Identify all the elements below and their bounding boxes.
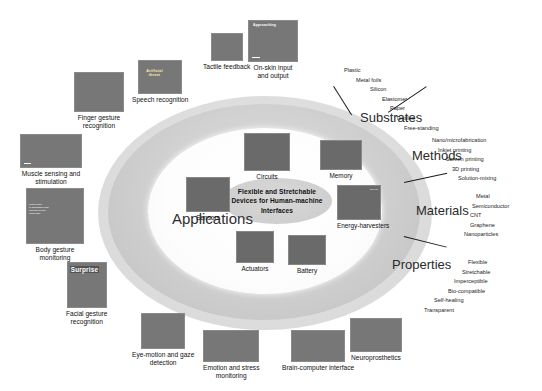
application-label-speech-recognition: Speech recognition [132, 96, 188, 104]
speech-recognition-image: Artificialthroat [138, 60, 182, 94]
category-label-materials: Materials [416, 203, 469, 218]
device-label-energy-harvesters: Energy-harvesters [337, 222, 389, 230]
application-tactile-feedback: Tactile feedback [203, 33, 250, 71]
body-gesture-image: control datato acquisition nodecollected… [26, 188, 84, 244]
device-label-circuits: Circuits [244, 173, 290, 181]
category-items-methods: Nano/microfabrication Inkjet printing Sc… [432, 136, 496, 184]
device-label-battery: Battery [288, 267, 326, 275]
device-sensors: Sensors [186, 177, 230, 222]
application-emotion-and-stress-monitoring: Emotion and stressmonitoring [203, 330, 259, 380]
energy-harvesters-image: 500 nm [337, 185, 381, 220]
tactile-feedback-image [211, 33, 243, 61]
body-gesture-note: control datato acquisition nodecollected… [29, 203, 51, 215]
application-facial-gesture-recognition: Surprise Facial gesturerecognition [66, 262, 107, 326]
device-label-memory: Memory [320, 172, 362, 180]
circuits-image [244, 133, 290, 171]
device-label-sensors: Sensors [186, 214, 230, 222]
category-label-properties: Properties [392, 257, 451, 272]
application-label-emotion-and-stress-monitoring: Emotion and stressmonitoring [203, 364, 259, 380]
emotion-stress-image [203, 330, 259, 362]
finger-gesture-image [74, 72, 124, 112]
application-finger-gesture-recognition: Finger gesturerecognition [74, 72, 124, 130]
surprise-tag: Surprise [70, 266, 100, 273]
memory-image [320, 140, 362, 170]
device-battery: Battery [288, 235, 326, 275]
application-label-body-gesture-monitoring: Body gesturemonitoring [26, 246, 84, 262]
device-circuits: Circuits [244, 133, 290, 181]
facial-gesture-image: Surprise [67, 262, 107, 308]
sensors-image [186, 177, 230, 212]
artificial-throat-tag: Artificialthroat [145, 69, 163, 77]
on-skin-scalebar [252, 57, 260, 58]
neuroprosthetics-image [350, 318, 402, 352]
application-speech-recognition: Artificialthroat Speech recognition [132, 60, 188, 104]
muscle-sensing-image [20, 134, 82, 168]
application-brain-computer-interface: Brain-computer interface [282, 330, 354, 372]
application-neuroprosthetics: Neuroprosthetics [350, 318, 402, 362]
application-label-neuroprosthetics: Neuroprosthetics [350, 354, 402, 362]
device-energy-harvesters: 500 nm Energy-harvesters [337, 185, 389, 230]
device-label-actuators: Actuators [236, 265, 274, 273]
muscle-scalebar [24, 163, 31, 164]
actuators-image [236, 231, 274, 263]
application-label-finger-gesture-recognition: Finger gesturerecognition [74, 114, 124, 130]
category-items-properties: Flexible Stretchable Imperceptible Bio-c… [452, 258, 490, 316]
application-on-skin-input-and-output: Approaching On-skin inputand output [248, 20, 298, 80]
category-items-materials: Metal Semiconductor CNT Graphene Nanopar… [470, 192, 509, 240]
approaching-tag: Approaching [252, 23, 277, 27]
battery-image [288, 235, 326, 265]
eye-motion-image [141, 313, 185, 349]
brain-computer-image [291, 330, 345, 362]
device-actuators: Actuators [236, 231, 274, 273]
device-memory: Memory [320, 140, 362, 180]
category-items-substrates: Plastic Metal foils Silicon Elastomer Pa… [344, 66, 439, 133]
application-label-muscle-sensing-and-stimulation: Muscle sensing andstimulation [20, 170, 82, 186]
application-label-eye-motion-and-gaze-detection: Eye-motion and gazedetection [132, 351, 194, 367]
application-label-tactile-feedback: Tactile feedback [203, 63, 250, 71]
on-skin-io-image: Approaching [248, 20, 298, 62]
energy-scale-label: 500 nm [370, 188, 378, 191]
application-eye-motion-and-gaze-detection: Eye-motion and gazedetection [132, 313, 194, 367]
application-body-gesture-monitoring: control datato acquisition nodecollected… [26, 188, 84, 262]
application-label-facial-gesture-recognition: Facial gesturerecognition [66, 310, 107, 326]
application-label-on-skin-input-and-output: On-skin inputand output [248, 64, 298, 80]
application-label-brain-computer-interface: Brain-computer interface [282, 364, 354, 372]
application-muscle-sensing-and-stimulation: Muscle sensing andstimulation [20, 134, 82, 186]
figure-canvas: Flexible and Stretchable Devices for Hum… [0, 0, 542, 391]
